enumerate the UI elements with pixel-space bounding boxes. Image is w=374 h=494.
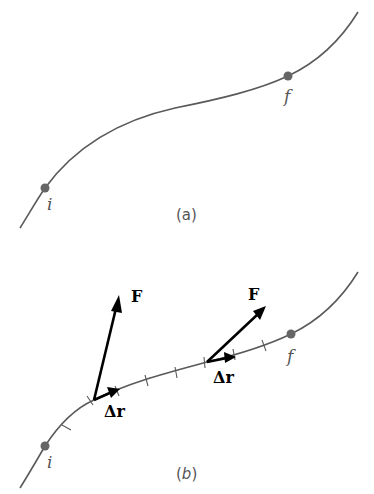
force-arrowhead-1-icon xyxy=(111,295,122,313)
label-f: f xyxy=(285,346,296,366)
label-i: i xyxy=(47,452,52,472)
caption-b-letter: b xyxy=(182,465,192,483)
force-label-1: F xyxy=(131,287,143,306)
displacement-label-1: Δr xyxy=(104,402,125,421)
displacement-label-2: Δr xyxy=(213,368,234,387)
label-f: f xyxy=(282,86,293,106)
caption-b-close: ) xyxy=(191,465,197,483)
panel-a: i f (a) xyxy=(20,12,358,228)
segment-ticks xyxy=(62,340,266,430)
force-label-2: F xyxy=(248,285,260,304)
label-i: i xyxy=(47,194,52,214)
initial-point-i xyxy=(41,442,50,451)
final-point-f xyxy=(287,330,296,339)
vector-pair-2: F Δr xyxy=(207,285,266,387)
force-arrow-1 xyxy=(94,304,117,400)
panel-b: i f F Δr F Δr (b) xyxy=(20,272,358,488)
caption-a: (a) xyxy=(176,206,197,224)
initial-point-i xyxy=(41,184,50,193)
vector-pair-1: F Δr xyxy=(94,287,143,421)
path-curve-a xyxy=(20,12,358,228)
caption-b: (b) xyxy=(176,465,197,483)
path-curve-b xyxy=(20,272,358,488)
work-path-diagram: i f (a) i f F Δr xyxy=(0,0,374,494)
final-point-f xyxy=(284,72,293,81)
